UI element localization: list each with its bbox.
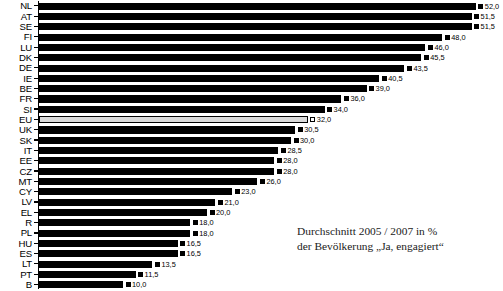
value-marker [445,35,450,40]
bar-row: AT51,5 [0,11,503,21]
axis-tick [34,98,38,99]
annotation-line-2: der Bevölkerung „Ja, engagiert“ [297,239,497,254]
bar [39,23,472,30]
value-marker [281,148,286,153]
bar [39,75,379,82]
axis-tick [34,108,38,109]
bar [39,271,136,278]
value-marker [193,220,198,225]
axis-tick [34,129,38,130]
value-label: 40,5 [388,73,402,84]
value-marker [193,231,198,236]
value-marker [474,24,479,29]
value-marker [327,107,332,112]
axis-tick [34,222,38,223]
bar-row: SK30,0 [0,135,503,145]
value-marker [260,179,265,184]
bar [39,250,178,257]
axis-tick [34,26,38,27]
bar [39,261,152,268]
bar-row: SE51,5 [0,22,503,32]
bar [39,85,367,92]
value-marker [126,282,131,287]
value-marker [298,127,303,132]
value-marker [294,138,299,143]
value-marker [138,272,143,277]
value-label: 39,0 [376,83,390,94]
axis-tick [34,160,38,161]
bar-row: DK45,5 [0,53,503,63]
bar [39,188,232,195]
value-label: 48,0 [451,32,465,43]
annotation-line-1: Durchschnitt 2005 / 2007 in % [297,224,497,239]
axis-tick [34,57,38,58]
axis-tick [34,139,38,140]
value-label: 34,0 [334,104,348,115]
bar-chart: NL52,0AT51,5SE51,5FI48,0LU46,0DK45,5DE43… [0,0,503,291]
bar-row: IT28,5 [0,145,503,155]
axis-tick [34,88,38,89]
value-label: 11,5 [145,269,159,280]
bar [39,95,341,102]
bar [39,281,123,288]
bar-highlighted [39,116,308,123]
bar-row: EL20,0 [0,207,503,217]
bar [39,54,421,61]
bar-row: PT11,5 [0,269,503,279]
value-label: 20,0 [216,207,230,218]
value-marker [478,4,483,9]
axis-tick [34,181,38,182]
value-label: 23,0 [241,186,255,197]
bar-row: NL52,0 [0,1,503,11]
value-label: 51,5 [481,21,495,32]
bar-row: SI34,0 [0,104,503,114]
axis-tick [34,253,38,254]
bar-row: MT26,0 [0,176,503,186]
value-marker [277,169,282,174]
value-marker [180,251,185,256]
bar [39,230,190,237]
axis-tick [34,47,38,48]
bar-row: LU46,0 [0,42,503,52]
bar-row: BE39,0 [0,84,503,94]
axis-tick [34,78,38,79]
value-marker [277,158,282,163]
axis-tick [34,150,38,151]
axis-tick [34,191,38,192]
bar-row: UK30,5 [0,125,503,135]
chart-annotation: Durchschnitt 2005 / 2007 in % der Bevölk… [297,224,497,254]
value-marker [369,86,374,91]
bar-row: IE40,5 [0,73,503,83]
bar-row: FI48,0 [0,32,503,42]
value-label: 36,0 [350,93,364,104]
bar [39,147,278,154]
value-marker [424,55,429,60]
value-marker [474,14,479,19]
bar [39,126,295,133]
bar [39,137,291,144]
axis-tick [34,243,38,244]
bar-row: LT13,5 [0,259,503,269]
value-label: 16,5 [187,248,201,259]
axis-tick [34,67,38,68]
axis-tick [34,201,38,202]
bar-row: CY23,0 [0,187,503,197]
category-label: B [0,279,32,290]
axis-tick [34,232,38,233]
value-marker [210,210,215,215]
value-label: 28,0 [283,166,297,177]
bar [39,13,472,20]
bar [39,44,425,51]
axis-tick [34,212,38,213]
axis-tick [34,274,38,275]
value-label: 13,5 [161,259,175,270]
axis-tick [34,5,38,6]
bar [39,219,190,226]
bar-row: B10,0 [0,280,503,290]
axis-tick [34,16,38,17]
bar [39,65,404,72]
bar-row: EU32,0 [0,115,503,125]
bar [39,157,274,164]
bar [39,209,207,216]
value-label: 18,0 [199,228,213,239]
